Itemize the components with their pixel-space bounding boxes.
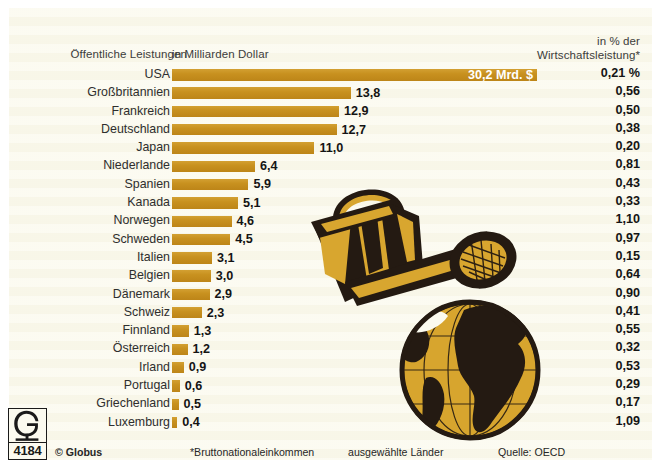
percent-value: 1,09 [615, 414, 640, 428]
country-label: Frankreich [15, 104, 170, 118]
value-bar: 3,0 [172, 270, 211, 281]
percent-value: 0,15 [615, 249, 640, 263]
footer-bar: 4184 © Globus *Bruttonationaleinkommen a… [0, 436, 643, 462]
value-bar: 0,6 [172, 380, 180, 391]
percent-value: 0,55 [615, 322, 640, 336]
value-bar: 11,0 [172, 142, 314, 153]
value-bar: 13,8 [172, 87, 351, 98]
chart-row: USA30,2 Mrd. $0,21 % [9, 66, 652, 84]
chart-row: Belgien3,00,64 [9, 267, 652, 285]
bar-value-label: 0,9 [189, 360, 207, 374]
chart-row: Großbritannien13,80,56 [9, 84, 652, 102]
percent-value: 0,32 [615, 340, 640, 354]
value-bar: 3,1 [172, 252, 212, 263]
percent-value: 0,56 [615, 84, 640, 98]
chart-panel: Öffentliche Leistungen in Milliarden Dol… [9, 8, 652, 460]
bar-value-label: 2,9 [215, 287, 233, 301]
percent-value: 0,33 [615, 194, 640, 208]
bar-container: 1,2 [172, 344, 188, 355]
value-bar: 1,3 [172, 325, 189, 336]
globus-logo: 4184 [8, 408, 47, 460]
value-bar: 5,9 [172, 179, 248, 190]
chart-content: Öffentliche Leistungen in Milliarden Dol… [9, 8, 652, 460]
bar-value-label: 2,3 [207, 306, 225, 320]
country-label: Spanien [15, 177, 170, 191]
percent-value: 0,97 [615, 231, 640, 245]
bar-container: 30,2 Mrd. $ [172, 69, 537, 80]
bar-value-label: 5,1 [243, 196, 261, 210]
bar-value-label: 3,1 [217, 251, 235, 265]
chart-row: Portugal0,60,29 [9, 377, 652, 395]
value-bar: 5,1 [172, 197, 238, 208]
country-label: Großbritannien [15, 85, 170, 99]
globus-g-icon [9, 410, 46, 444]
bar-container: 5,1 [172, 197, 238, 208]
country-label: Portugal [15, 378, 170, 392]
country-label: Dänemark [15, 287, 170, 301]
country-label: Deutschland [15, 122, 170, 136]
bar-value-label: 0,5 [184, 397, 202, 411]
globus-infographic-poster: Öffentliche Leistungen in Milliarden Dol… [0, 0, 661, 468]
value-bar: 30,2 Mrd. $ [172, 69, 537, 80]
bar-container: 11,0 [172, 142, 314, 153]
bar-container: 0,6 [172, 380, 180, 391]
bar-container: 0,5 [172, 399, 179, 410]
bar-value-label: 13,8 [356, 86, 381, 100]
bar-container: 12,9 [172, 106, 339, 117]
country-label: Finnland [15, 323, 170, 337]
percent-header-line2: Wirtschaftsleistung* [537, 48, 640, 62]
bar-container: 3,0 [172, 270, 211, 281]
bar-value-label: 4,5 [235, 232, 253, 246]
country-label: Kanada [15, 195, 170, 209]
footnote-text: *Bruttonationaleinkommen [190, 446, 314, 458]
chart-row: Niederlande6,40,81 [9, 157, 652, 175]
percent-value: 1,10 [615, 212, 640, 226]
percent-header-line1: in % der [537, 34, 640, 48]
value-bar: 0,5 [172, 399, 179, 410]
bar-container: 12,7 [172, 124, 337, 135]
country-label: Japan [15, 140, 170, 154]
bar-value-label: 1,2 [193, 342, 211, 356]
value-bar: 6,4 [172, 161, 255, 172]
bar-container: 0,4 [172, 417, 177, 428]
country-label: Belgien [15, 268, 170, 282]
bar-value-label: 4,6 [237, 214, 255, 228]
percent-value: 0,41 [615, 304, 640, 318]
bar-value-label: 5,9 [253, 177, 271, 191]
percent-value: 0,29 [615, 377, 640, 391]
percent-value: 0,64 [615, 267, 640, 281]
value-bar: 0,4 [172, 417, 177, 428]
percent-value: 0,17 [615, 395, 640, 409]
percent-value: 0,81 [615, 157, 640, 171]
globus-number: 4184 [9, 443, 46, 458]
country-label: Schweiz [15, 305, 170, 319]
bar-container: 6,4 [172, 161, 255, 172]
value-bar: 4,6 [172, 216, 232, 227]
bar-container: 13,8 [172, 87, 351, 98]
copyright-text: © Globus [55, 446, 102, 458]
chart-row: Schweiz2,30,41 [9, 304, 652, 322]
chart-row: Deutschland12,70,38 [9, 121, 652, 139]
bar-rows: USA30,2 Mrd. $0,21 %Großbritannien13,80,… [9, 66, 652, 432]
chart-row: Finnland1,30,55 [9, 322, 652, 340]
bar-value-label: 6,4 [260, 159, 278, 173]
chart-row: Griechenland0,50,17 [9, 395, 652, 413]
chart-unit-label: in Milliarden Dollar [172, 48, 269, 60]
chart-row: Japan11,00,20 [9, 139, 652, 157]
chart-row: Schweden4,50,97 [9, 231, 652, 249]
bar-value-label: 1,3 [194, 324, 212, 338]
bar-value-label: 12,7 [342, 123, 367, 137]
country-label: Irland [15, 360, 170, 374]
value-bar: 12,7 [172, 124, 337, 135]
bar-container: 0,9 [172, 362, 184, 373]
percent-value: 0,38 [615, 121, 640, 135]
bar-container: 2,9 [172, 289, 210, 300]
selection-text: ausgewählte Länder [348, 446, 443, 458]
country-label: Schweden [15, 232, 170, 246]
chart-row: Österreich1,20,32 [9, 340, 652, 358]
percent-value: 0,90 [615, 286, 640, 300]
bar-container: 2,3 [172, 307, 202, 318]
source-text: Quelle: OECD [498, 446, 565, 458]
bar-value-label: 0,4 [182, 415, 200, 429]
percent-value: 0,50 [615, 103, 640, 117]
